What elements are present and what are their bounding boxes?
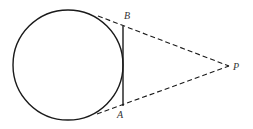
circle (13, 10, 123, 120)
geometry-diagram: B A P (0, 0, 253, 129)
label-b: B (124, 10, 130, 21)
label-a: A (116, 109, 124, 120)
label-p: P (232, 61, 239, 72)
